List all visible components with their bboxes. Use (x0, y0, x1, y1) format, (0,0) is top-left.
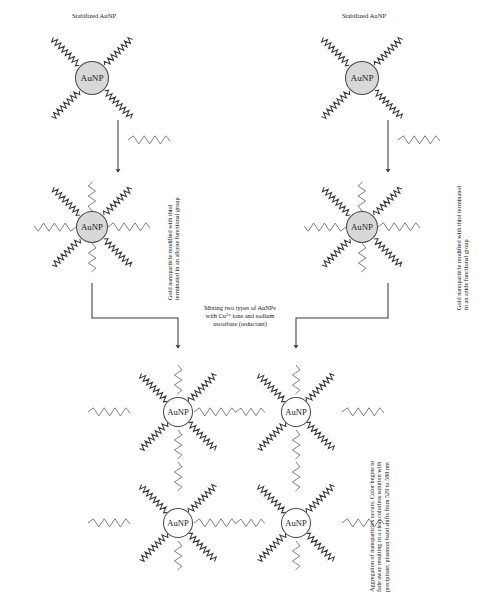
aggregate-node-3 (138, 483, 217, 562)
stage-2-right-caption: Gold nanoparticle modified with thiol te… (455, 150, 470, 310)
mixing-caption: Mixing two types of AuNPs with Cu²⁺ ions… (178, 304, 302, 327)
aggregate-node-2 (256, 372, 335, 451)
stage-1-left-particle (50, 36, 134, 120)
reagent-left-alkyne-thiol (128, 136, 170, 144)
stage-1-right-caption: Stabilized AuNP (312, 12, 416, 20)
aggregate-node-4 (256, 483, 335, 562)
stage-1-left-caption: Stabilized AuNP (42, 12, 146, 20)
stage-2-left-particle (34, 182, 150, 272)
arrow-right-to-aggregate (296, 283, 388, 348)
diagram-vector-layer: AuNP AuNP AuNP (0, 0, 491, 602)
stage-1-right-particle (320, 36, 404, 120)
stage-2-left-caption: Gold nanoparticle modified with thiol te… (166, 150, 181, 300)
reagent-right-azide-thiol (398, 136, 440, 144)
result-caption: Aggregation of nanoparticles occurs. Col… (368, 358, 390, 592)
diagram-canvas: AuNP AuNP AuNP (0, 0, 491, 602)
aggregate-node-1 (138, 372, 217, 451)
aggregate-linkers (88, 365, 384, 570)
stage-2-right-particle (304, 182, 420, 272)
